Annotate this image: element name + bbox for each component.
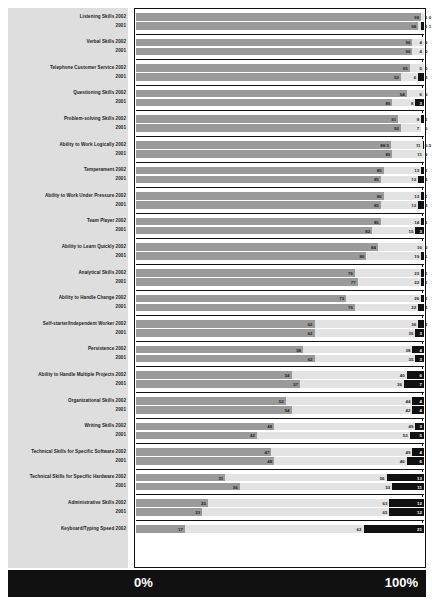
stacked-bar: 48466 (136, 457, 424, 465)
stacked-bar: 58384 (136, 346, 424, 354)
group-separator (136, 469, 424, 470)
bar-value-label: 4 (420, 398, 422, 403)
stacked-bar: 48493 (136, 423, 424, 431)
bar-value-label: 84 (371, 245, 376, 250)
bar-value-label: 53 (385, 484, 390, 489)
bar-value-label: 82 (365, 228, 370, 233)
stacked-bar: 8911 (136, 150, 424, 158)
bar-segment-primary: 89 (136, 150, 392, 158)
bar-value-label: 19 (414, 254, 419, 259)
bar-segment-middle: 56 (225, 474, 386, 482)
bar-segment-dark: 4 (412, 406, 424, 414)
bar-value-label: 11 (417, 151, 422, 156)
bar-value-label: 77 (351, 279, 356, 284)
bar-value-label: 3 (420, 100, 422, 105)
bar-segment-middle: 6 (407, 90, 424, 98)
group-separator (136, 418, 424, 419)
axis-tick (422, 341, 423, 344)
bar-value-label: 76 (348, 270, 353, 275)
bar-value-label: 22 (411, 305, 416, 310)
bar-segment-dark: 3 (415, 99, 424, 107)
stacked-bar: 52444 (136, 397, 424, 405)
bar-value-label: 47 (264, 449, 269, 454)
stacked-bar: 315613 (136, 474, 424, 482)
stacked-bar: 7623 (136, 269, 424, 277)
bar-segment-primary: 96 (136, 48, 412, 56)
bar-value-label: 36 (397, 382, 402, 387)
bar-value-label: 62 (308, 330, 313, 335)
bar-value-label: 96 (406, 40, 411, 45)
bar-segment-primary: 98 (136, 22, 418, 30)
bar-value-label: 25 (201, 501, 206, 506)
bar-segment-primary: 73 (136, 295, 346, 303)
bar-segment-dark: 4 (412, 397, 424, 405)
axis-tick (422, 290, 423, 293)
bar-segment-primary: 76 (136, 304, 355, 312)
axis-tick (422, 443, 423, 446)
bar-segment-middle (421, 13, 424, 21)
axis-footer: 0% 100% (8, 570, 426, 597)
bar-value-label: 40 (400, 373, 405, 378)
bar-segment-primary: 25 (136, 499, 208, 507)
group-separator (136, 366, 424, 367)
bar-segment-primary: 88.5 (136, 141, 391, 149)
bar-segment-primary: 85 (136, 218, 381, 226)
bar-value-label: 73 (339, 296, 344, 301)
bar-value-label: 17 (178, 526, 183, 531)
bar-segment-dark: 12 (389, 508, 424, 516)
bar-segment-dark: 4 (412, 448, 424, 456)
axis-tick (422, 136, 423, 139)
bar-segment-middle: 36 (315, 320, 419, 328)
bar-segment-middle: 5 (410, 64, 424, 72)
bar-value-label: 13 (411, 177, 416, 182)
bar-segment-dark (421, 192, 424, 200)
stacked-bar: 7326 (136, 295, 424, 303)
bar-value-label: 62 (308, 321, 313, 326)
stacked-bar: 365311 (136, 483, 424, 491)
bar-segment-middle: 16 (378, 243, 424, 251)
axis-tick (422, 315, 423, 318)
bar-segment-primary: 54 (136, 371, 292, 379)
bars-layer: 9998964964955926946898391892788.51189118… (0, 0, 432, 605)
bar-segment-middle: 23 (355, 269, 421, 277)
bar-segment-primary: 85 (136, 201, 381, 209)
bar-segment-middle: 65 (202, 508, 389, 516)
bar-value-label: 3 (420, 228, 422, 233)
bar-segment-dark (421, 218, 424, 226)
stacked-bar: 946 (136, 90, 424, 98)
group-separator (136, 341, 424, 342)
bar-value-label: 80 (360, 254, 365, 259)
bar-segment-middle: 26 (346, 295, 421, 303)
bar-value-label: 31 (218, 475, 223, 480)
stacked-bar: 42535 (136, 432, 424, 440)
bar-segment-dark: 3 (415, 423, 424, 431)
bar-segment-dark (421, 252, 424, 260)
bar-value-label: 6 (420, 373, 422, 378)
axis-tick (422, 264, 423, 267)
bar-segment-primary: 36 (136, 483, 240, 491)
axis-tick (422, 238, 423, 241)
footer-left-block (8, 570, 126, 597)
bar-value-label: 63 (383, 501, 388, 506)
stacked-bar: 7722 (136, 278, 424, 286)
bar-value-label: 95 (403, 65, 408, 70)
bar-segment-middle: 11 (391, 141, 423, 149)
bar-segment-dark (421, 295, 424, 303)
bar-segment-primary: 42 (136, 432, 257, 440)
stacked-bar: 98 (136, 22, 424, 30)
group-separator (136, 34, 424, 35)
bar-segment-middle: 13 (384, 167, 421, 175)
bar-value-label: 58 (296, 347, 301, 352)
bar-segment-primary: 62 (136, 320, 315, 328)
bar-segment-dark (418, 73, 424, 81)
stacked-bar: 88.511 (136, 141, 424, 149)
bar-value-label: 5 (420, 433, 422, 438)
bar-value-label: 6 (414, 74, 416, 79)
bar-segment-middle: 4 (412, 39, 424, 47)
bar-segment-primary: 77 (136, 278, 358, 286)
bar-segment-middle: 8 (398, 115, 421, 123)
bar-value-label: 23 (195, 510, 200, 515)
axis-tick (422, 187, 423, 190)
bar-segment-primary: 47 (136, 448, 271, 456)
bar-segment-middle: 53 (257, 432, 410, 440)
